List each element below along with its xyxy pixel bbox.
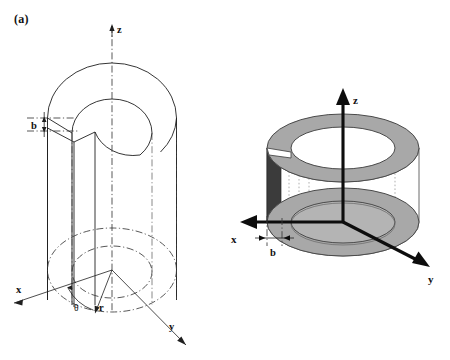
svg-text:y: y — [428, 273, 434, 285]
panel-a-radius-annotation: r — [95, 270, 112, 314]
panel-b: (b) — [225, 0, 450, 360]
svg-text:z: z — [353, 94, 358, 106]
panel-a-axis-z: z — [109, 24, 122, 37]
svg-text:θ: θ — [74, 303, 79, 313]
svg-text:x: x — [16, 284, 22, 295]
svg-text:r: r — [99, 302, 104, 313]
panel-a-slit-width-annotation: b — [27, 112, 78, 137]
figure-root: (a) — [0, 0, 450, 360]
svg-text:z: z — [117, 24, 122, 35]
svg-text:x: x — [231, 233, 237, 245]
panel-b-drawing: z x y b — [225, 0, 450, 360]
svg-text:y: y — [169, 321, 175, 332]
svg-text:b: b — [31, 120, 37, 131]
panel-a: (a) — [0, 0, 225, 360]
panel-a-centerlines — [48, 26, 177, 312]
panel-a-drawing: x y z r — [0, 0, 225, 360]
panel-a-axis-x: x — [14, 270, 112, 306]
svg-text:b: b — [270, 247, 276, 258]
panel-a-slit-faces — [72, 132, 140, 307]
